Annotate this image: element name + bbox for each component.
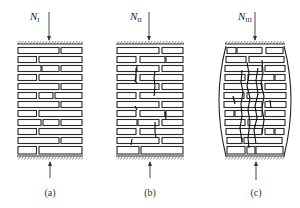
bottom-reaction-arrow-b <box>148 161 152 178</box>
top-plate-a <box>17 41 83 44</box>
top-load-arrow-c <box>253 12 257 41</box>
caption-b: (b) <box>144 187 156 199</box>
bottom-plate-a <box>17 156 83 160</box>
bottom-reaction-arrow-c <box>254 161 258 180</box>
panel-b: NII <box>116 10 184 199</box>
caption-a: (a) <box>44 187 55 199</box>
caption-c: (c) <box>250 187 261 199</box>
top-load-arrow-a <box>47 12 51 41</box>
masonry-compression-diagram: NI <box>0 0 300 208</box>
brick-wall-b <box>117 48 183 155</box>
load-label-b: NII <box>129 10 142 23</box>
bottom-plate-b <box>116 156 184 160</box>
top-plate-b <box>116 41 184 44</box>
bottom-reaction-arrow-a <box>48 161 52 178</box>
bottom-plate-c <box>225 156 285 160</box>
top-plate-c <box>225 41 285 44</box>
load-label-a: NI <box>29 10 40 23</box>
panel-c: NIII <box>219 10 291 199</box>
brick-wall-a <box>18 48 82 155</box>
panel-a: NI <box>17 10 83 199</box>
load-label-c: NIII <box>237 10 252 23</box>
top-load-arrow-b <box>147 12 151 41</box>
